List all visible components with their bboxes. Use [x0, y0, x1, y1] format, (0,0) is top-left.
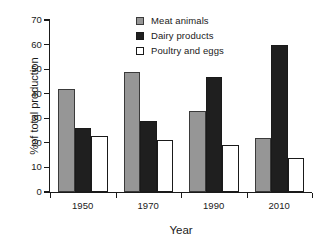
y-axis-tick: [44, 19, 49, 20]
x-axis-tick-label: 2010: [249, 200, 309, 211]
x-axis-tick: [181, 193, 182, 198]
legend-item-meat-animals[interactable]: Meat animals: [136, 14, 256, 28]
x-axis-title: Year: [50, 224, 312, 237]
bar-1990-poultry-and-eggs: [222, 145, 239, 192]
legend-swatch-icon: [136, 32, 144, 40]
legend-swatch-icon: [136, 47, 144, 55]
chart-legend: Meat animalsDairy productsPoultry and eg…: [136, 14, 256, 59]
y-axis-tick: [44, 69, 49, 70]
bar-1950-dairy-products: [75, 128, 92, 192]
bar-1990-meat-animals: [189, 111, 206, 192]
x-axis-tick-label: 1970: [118, 200, 178, 211]
bar-1990-dairy-products: [206, 77, 223, 192]
y-axis-tick: [44, 118, 49, 119]
legend-swatch-icon: [136, 17, 144, 25]
bar-2010-poultry-and-eggs: [288, 158, 305, 192]
bar-chart-figure: 010203040506070 1950197019902010 %of tot…: [0, 0, 321, 249]
legend-label: Meat animals: [151, 16, 209, 26]
y-axis-tick: [44, 93, 49, 94]
bar-1950-meat-animals: [58, 89, 75, 192]
x-axis-tick-label: 1950: [53, 200, 113, 211]
x-axis-tick: [247, 193, 248, 198]
y-axis-title: %of total production: [28, 20, 40, 192]
y-axis-tick: [44, 142, 49, 143]
x-axis-tick: [312, 193, 313, 198]
bar-1970-meat-animals: [124, 72, 141, 192]
x-axis-tick: [50, 193, 51, 198]
legend-item-poultry-and-eggs[interactable]: Poultry and eggs: [136, 44, 256, 58]
bar-2010-meat-animals: [255, 138, 272, 192]
y-axis-tick: [44, 167, 49, 168]
x-axis-tick: [116, 193, 117, 198]
bar-1970-dairy-products: [140, 121, 157, 192]
legend-label: Poultry and eggs: [151, 46, 224, 56]
bar-1970-poultry-and-eggs: [157, 140, 174, 192]
x-axis-tick-label: 1990: [184, 200, 244, 211]
bar-1950-poultry-and-eggs: [91, 136, 108, 193]
bar-2010-dairy-products: [271, 45, 288, 192]
legend-item-dairy-products[interactable]: Dairy products: [136, 29, 256, 43]
y-axis-tick: [44, 44, 49, 45]
legend-label: Dairy products: [151, 31, 214, 41]
y-axis-tick: [44, 191, 49, 192]
